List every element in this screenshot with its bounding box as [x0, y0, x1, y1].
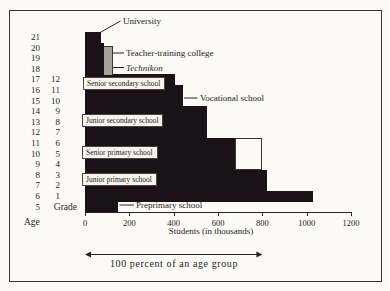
x-tick-1000: [307, 212, 308, 216]
unenrolled-open-box: [235, 138, 263, 170]
bar-age-21: [85, 32, 101, 43]
label-box-junior-primary: Junior primary school: [82, 173, 157, 186]
x-axis-title: Students (in thousands): [111, 226, 311, 236]
education-pyramid-figure: 2120191817121611151014913812711610594837…: [0, 0, 390, 291]
technikon-bar: [104, 46, 113, 75]
x-tick-200: [129, 212, 130, 216]
pointer-label-university: University: [123, 16, 161, 27]
pointer-label-teacher-training: Teacher-training college: [126, 48, 213, 59]
age-axis-title: Age: [24, 217, 46, 227]
bar-age-19: [85, 53, 104, 64]
pointer-label-vocational: Vocational school: [200, 93, 264, 104]
pointer-label-technikon: Technikon: [126, 63, 163, 74]
x-tick-600: [218, 212, 219, 216]
label-box-junior-secondary: Junior secondary school: [82, 114, 163, 127]
bar-age-15: [85, 96, 183, 106]
x-tick-label-1200: 1200: [336, 218, 366, 228]
grade-label-title: Grade: [37, 201, 77, 213]
bar-age-20: [85, 43, 104, 53]
bar-age-5: [85, 202, 118, 212]
bar-age-18: [85, 64, 104, 74]
label-box-senior-secondary: Senior secondary school: [83, 77, 165, 90]
x-tick-0: [85, 212, 86, 216]
x-tick-1200: [351, 212, 352, 216]
footer-caption: 100 percent of an age group: [84, 258, 264, 269]
label-box-senior-primary: Senior primary school: [82, 146, 158, 159]
x-tick-800: [262, 212, 263, 216]
x-tick-label-0: 0: [70, 218, 100, 228]
bar-age-9: [85, 159, 235, 170]
bar-age-12: [85, 127, 207, 138]
pointer-label-preprimary: Preprimary school: [136, 200, 202, 211]
x-tick-400: [174, 212, 175, 216]
